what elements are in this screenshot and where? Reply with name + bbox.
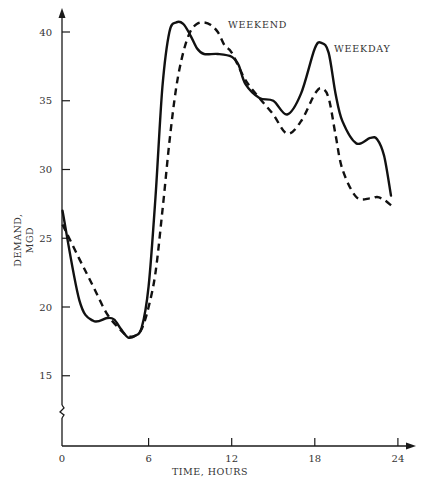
x-ticks: 06121824 — [59, 438, 404, 464]
y-tick-label: 20 — [39, 302, 52, 313]
y-tick-label: 15 — [39, 370, 52, 381]
x-tick-label: 6 — [145, 453, 151, 464]
x-tick-label: 0 — [59, 453, 65, 464]
demand-chart: 152025303540 06121824 DEMAND, MGD TIME, … — [0, 0, 427, 489]
y-axis-title-line2: MGD — [24, 227, 35, 253]
y-axis-title: DEMAND, MGD — [12, 213, 35, 266]
weekday-line — [63, 22, 392, 338]
y-tick-label: 40 — [39, 27, 52, 38]
y-axis-arrow-icon — [59, 8, 66, 18]
weekday-label: WEEKDAY — [334, 43, 391, 54]
y-tick-label: 25 — [39, 233, 52, 244]
x-tick-label: 12 — [225, 453, 238, 464]
y-tick-label: 30 — [39, 164, 52, 175]
x-axis-title: TIME, HOURS — [172, 466, 248, 477]
axes: 152025303540 06121824 — [39, 8, 416, 464]
weekend-line — [63, 22, 392, 336]
x-tick-label: 18 — [308, 453, 321, 464]
x-tick-label: 24 — [392, 453, 405, 464]
x-axis-arrow-icon — [406, 443, 416, 450]
y-axis-title-line1: DEMAND, — [12, 213, 23, 266]
y-axis-break-icon — [60, 405, 64, 418]
weekend-label: WEEKEND — [228, 19, 287, 30]
y-ticks: 152025303540 — [39, 27, 70, 382]
y-tick-label: 35 — [39, 95, 52, 106]
